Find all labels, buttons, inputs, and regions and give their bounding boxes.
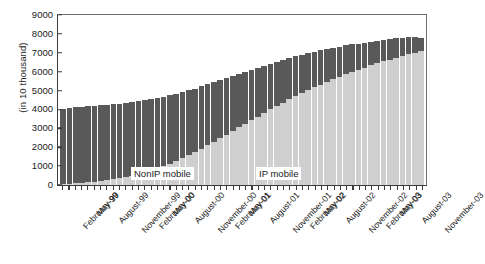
- y-tick-5000: 5000: [32, 86, 58, 96]
- bar-segment-nonip: [217, 80, 223, 138]
- x-tick-mark: [296, 186, 297, 190]
- y-tick-mark: [58, 166, 62, 167]
- bar-segment-ip: [362, 68, 368, 185]
- x-tick-mark: [378, 186, 379, 190]
- bar-segment-ip: [117, 178, 123, 185]
- y-axis-title: (in 10 thousand): [17, 18, 28, 138]
- x-tick-mark: [422, 186, 423, 190]
- bar-segment-nonip: [148, 99, 154, 170]
- bar-segment-ip: [211, 142, 217, 185]
- bar-segment-nonip: [330, 48, 336, 80]
- annotation-ip-mobile: IP mobile: [256, 167, 301, 180]
- x-tick-mark: [308, 186, 309, 190]
- bar-february-99: [60, 15, 66, 185]
- y-tick-mark: [58, 109, 62, 110]
- bar-segment-nonip: [199, 86, 205, 148]
- bar-january-03: [356, 15, 362, 185]
- x-tick-mark: [144, 186, 145, 190]
- x-tick-mark: [125, 186, 126, 190]
- y-tick-8000: 8000: [32, 29, 58, 39]
- bar-segment-nonip: [117, 104, 123, 178]
- x-tick-mark: [132, 186, 133, 190]
- bar-segment-nonip: [79, 107, 85, 183]
- bar-segment-nonip: [268, 64, 274, 110]
- bar-segment-nonip: [230, 76, 236, 131]
- x-tick-mark: [365, 186, 366, 190]
- bar-segment-ip: [393, 58, 399, 185]
- x-tick-mark: [220, 186, 221, 190]
- bar-october-02: [337, 15, 343, 185]
- bar-segment-nonip: [249, 70, 255, 120]
- x-tick-mark: [390, 186, 391, 190]
- bar-april-02: [299, 15, 305, 185]
- bar-segment-nonip: [205, 84, 211, 145]
- bar-segment-nonip: [406, 37, 412, 54]
- bar-segment-nonip: [337, 47, 343, 77]
- bar-segment-nonip: [123, 103, 129, 177]
- bar-april-01: [224, 15, 230, 185]
- bar-april-99: [73, 15, 79, 185]
- x-tick-mark: [403, 186, 404, 190]
- bar-segment-ip: [305, 90, 311, 185]
- x-tick-mark: [409, 186, 410, 190]
- bar-segment-nonip: [85, 106, 91, 182]
- x-tick-mark: [359, 186, 360, 190]
- bar-segment-ip: [67, 184, 73, 185]
- y-tick-mark: [58, 147, 62, 148]
- y-tick-2000: 2000: [32, 142, 58, 152]
- bar-segment-nonip: [211, 82, 217, 141]
- bar-segment-ip: [230, 131, 236, 185]
- bar-segment-nonip: [167, 95, 173, 163]
- bar-segment-nonip: [142, 100, 148, 172]
- bar-october-03: [412, 15, 418, 185]
- bar-december-00: [199, 15, 205, 185]
- bar-segment-nonip: [136, 101, 142, 174]
- bar-november-99: [117, 15, 123, 185]
- bar-march-01: [217, 15, 223, 185]
- bar-segment-ip: [199, 149, 205, 185]
- x-tick-mark: [270, 186, 271, 190]
- bar-segment-nonip: [224, 78, 230, 134]
- bar-july-01: [242, 15, 248, 185]
- bar-october-00: [186, 15, 192, 185]
- bar-segment-nonip: [312, 52, 318, 88]
- y-tick-1000: 1000: [32, 161, 58, 171]
- x-tick-mark: [207, 186, 208, 190]
- bar-segment-nonip: [356, 44, 362, 70]
- bar-april-03: [374, 15, 380, 185]
- bar-segment-nonip: [343, 45, 349, 74]
- bar-segment-ip: [123, 177, 129, 185]
- bar-november-00: [192, 15, 198, 185]
- x-tick-mark: [94, 186, 95, 190]
- bar-june-99: [85, 15, 91, 185]
- x-tick-mark: [245, 186, 246, 190]
- bar-segment-ip: [73, 183, 79, 185]
- bar-september-02: [330, 15, 336, 185]
- y-tick-3000: 3000: [32, 124, 58, 134]
- bar-segment-nonip: [381, 40, 387, 62]
- bar-segment-ip: [412, 53, 418, 185]
- bar-february-01: [211, 15, 217, 185]
- x-tick-mark: [81, 186, 82, 190]
- plot-area: NonIP mobile IP mobile 01000200030004000…: [57, 14, 427, 186]
- bar-august-00: [173, 15, 179, 185]
- bar-march-03: [368, 15, 374, 185]
- x-tick-mark: [169, 186, 170, 190]
- bar-segment-nonip: [104, 105, 110, 180]
- y-tick-mark: [58, 14, 62, 15]
- x-tick-mark: [68, 186, 69, 190]
- x-tick-mark: [106, 186, 107, 190]
- x-tick-mark: [251, 186, 252, 190]
- bar-segment-ip: [205, 145, 211, 185]
- bar-segment-nonip: [318, 50, 324, 84]
- bar-segment-nonip: [274, 62, 280, 106]
- bar-february-03: [362, 15, 368, 185]
- x-tick-mark: [214, 186, 215, 190]
- bar-segment-nonip: [374, 41, 380, 64]
- y-tick-6000: 6000: [32, 67, 58, 77]
- x-tick-mark: [151, 186, 152, 190]
- bar-segment-ip: [356, 70, 362, 185]
- bar-segment-ip: [374, 63, 380, 185]
- bar-june-01: [236, 15, 242, 185]
